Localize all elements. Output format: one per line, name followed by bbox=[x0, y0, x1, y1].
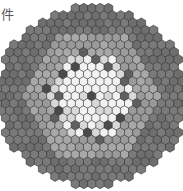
annotation-text-fragment: 件 bbox=[1, 8, 14, 22]
core-map-canvas: 件 bbox=[0, 0, 183, 191]
hex-lattice-svg bbox=[0, 0, 183, 191]
outer-assembly-cell bbox=[174, 54, 183, 64]
outer-assembly-cell bbox=[174, 127, 183, 137]
